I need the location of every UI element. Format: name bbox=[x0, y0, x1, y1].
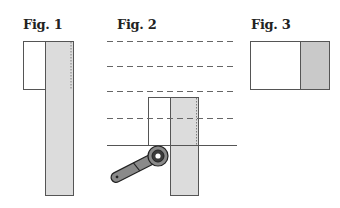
rotary-cutter-icon bbox=[109, 146, 168, 184]
figure-3 bbox=[251, 42, 330, 90]
fig3-gray-section bbox=[301, 42, 330, 90]
fig2-ruler-guides bbox=[107, 42, 237, 92]
fig3-white-section bbox=[251, 42, 301, 90]
figure-1 bbox=[24, 42, 74, 196]
figure-2 bbox=[107, 42, 237, 196]
diagram-canvas bbox=[0, 0, 340, 208]
fig1-fabric-strip bbox=[46, 42, 74, 196]
fig2-folded-flap bbox=[149, 98, 171, 146]
fig1-folded-flap bbox=[24, 42, 46, 90]
fig2-fabric-strip bbox=[171, 98, 199, 196]
